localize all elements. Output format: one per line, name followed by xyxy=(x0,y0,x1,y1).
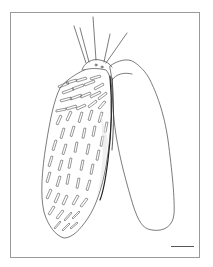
apical-setae xyxy=(74,17,127,63)
seam-shading xyxy=(96,110,108,200)
specimen-illustration xyxy=(0,0,213,267)
lobe-setae xyxy=(46,75,108,231)
left-lobe xyxy=(42,69,112,239)
right-lobe xyxy=(110,60,174,230)
scale-bar xyxy=(171,246,194,247)
